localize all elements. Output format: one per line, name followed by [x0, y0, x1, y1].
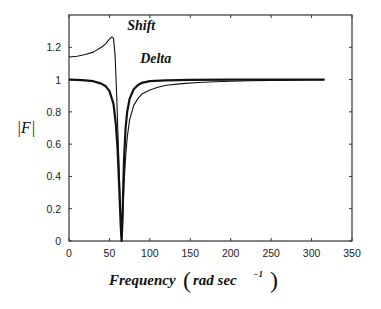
annotation-delta: Delta: [139, 51, 171, 66]
x-axis-label-main: Frequency: [108, 272, 176, 288]
x-axis-ticks: 050100150200250300350: [66, 15, 361, 259]
series-group: [69, 37, 325, 241]
x-tick-label: 150: [182, 247, 200, 259]
y-tick-label: 0.8: [46, 106, 61, 118]
y-tick-label: 0.6: [46, 138, 61, 150]
series-line-delta: [69, 80, 325, 241]
x-tick-label: 0: [66, 247, 72, 259]
y-tick-label: 1.2: [46, 41, 61, 53]
x-tick-label: 350: [343, 247, 361, 259]
x-tick-label: 50: [104, 247, 116, 259]
annotation-shift: Shift: [127, 18, 156, 33]
y-axis-ticks: 00.20.40.60.811.2: [46, 41, 352, 247]
frequency-response-chart: 050100150200250300350 00.20.40.60.811.2 …: [0, 0, 381, 309]
plot-frame: [69, 15, 352, 241]
series-line-shift: [69, 37, 325, 241]
x-tick-label: 300: [303, 247, 321, 259]
x-tick-label: 100: [141, 247, 159, 259]
y-tick-label: 1: [55, 74, 61, 86]
y-tick-label: 0.2: [46, 203, 61, 215]
x-tick-label: 250: [262, 247, 280, 259]
x-axis-label-open-paren: (: [183, 267, 191, 293]
x-axis-label: Frequency ( rad sec −1 ): [108, 267, 278, 293]
annotations: ShiftDelta: [127, 18, 171, 67]
y-tick-label: 0.4: [46, 170, 61, 182]
y-tick-label: 0: [55, 235, 61, 247]
x-axis-label-unit: rad sec: [193, 272, 237, 288]
x-axis-label-exponent: −1: [253, 269, 263, 279]
x-axis-label-close-paren: ): [270, 267, 278, 293]
x-tick-label: 200: [222, 247, 240, 259]
y-axis-label: |F|: [17, 119, 36, 137]
